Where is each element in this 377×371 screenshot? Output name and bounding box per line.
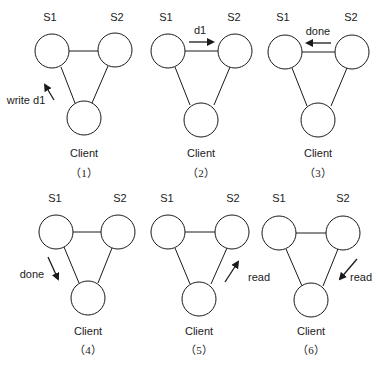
label-s2: S2: [227, 11, 240, 23]
label-s1: S1: [160, 192, 173, 204]
node-client: [301, 103, 335, 137]
node-s2: [326, 216, 360, 250]
caption: （6）: [297, 344, 325, 356]
node-s2: [335, 35, 369, 69]
panel-3: S1 S2 Client （3） done: [268, 11, 369, 179]
panel-5: S1 S2 Client （5） read: [151, 192, 270, 356]
node-s1: [35, 34, 69, 68]
caption: （4）: [74, 344, 102, 356]
arrow-label: done: [306, 25, 330, 37]
label-client: Client: [74, 325, 102, 337]
node-client: [294, 283, 328, 317]
node-s1: [151, 34, 185, 68]
node-client: [67, 101, 101, 135]
node-s2: [101, 215, 135, 249]
label-s1: S1: [43, 11, 56, 23]
node-client: [184, 103, 218, 137]
arrow-icon: [45, 85, 54, 100]
label-s1: S1: [276, 11, 289, 23]
label-s1: S1: [48, 192, 61, 204]
label-s1: S1: [272, 192, 285, 204]
label-s2: S2: [110, 11, 123, 23]
node-s1: [151, 215, 185, 249]
label-client: Client: [187, 147, 215, 159]
node-s2: [215, 215, 249, 249]
label-s2: S2: [344, 11, 357, 23]
arrow-icon: [225, 262, 238, 282]
label-s2: S2: [113, 192, 126, 204]
label-s1: S1: [159, 11, 172, 23]
arrow-label: write d1: [6, 94, 46, 106]
label-s2: S2: [226, 192, 239, 204]
label-s2: S2: [336, 192, 349, 204]
arrow-label: read: [248, 271, 270, 283]
caption: （5）: [185, 344, 213, 356]
arrow-label: read: [350, 271, 372, 283]
panel-1: S1 S2 Client （1） write d1: [6, 11, 132, 179]
panel-2: S1 S2 Client （2） d1: [151, 11, 252, 179]
label-client: Client: [185, 325, 213, 337]
node-client: [71, 281, 105, 315]
node-s2: [98, 33, 132, 67]
label-client: Client: [304, 147, 332, 159]
panel-6: S1 S2 Client （6） read: [262, 192, 372, 356]
arrow-label: d1: [194, 24, 206, 36]
arrow-icon: [48, 257, 58, 279]
replication-diagram: S1 S2 Client （1） write d1 S1 S2 Client （…: [0, 0, 377, 371]
node-s1: [262, 216, 296, 250]
label-client: Client: [70, 147, 98, 159]
arrow-label: done: [20, 268, 44, 280]
node-s2: [218, 34, 252, 68]
node-client: [182, 282, 216, 316]
node-s1: [39, 215, 73, 249]
caption: （2）: [187, 167, 215, 179]
caption: （1）: [70, 167, 98, 179]
caption: （3）: [304, 167, 332, 179]
panel-4: S1 S2 Client （4） done: [20, 192, 135, 356]
label-client: Client: [297, 325, 325, 337]
node-s1: [268, 35, 302, 69]
